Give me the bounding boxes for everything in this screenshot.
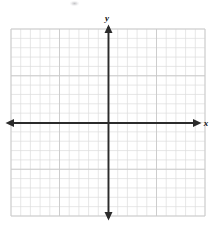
coordinate-plane-svg: y x xyxy=(0,0,214,230)
figure-background xyxy=(0,0,214,230)
coordinate-plane-figure: y x xyxy=(0,0,214,230)
x-axis-label: x xyxy=(203,118,209,128)
